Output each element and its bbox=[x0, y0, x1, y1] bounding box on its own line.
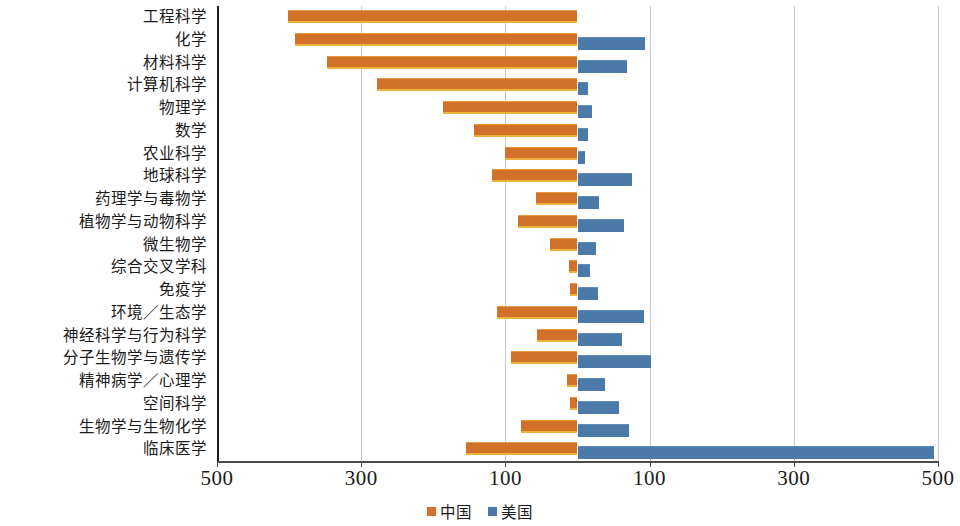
bar-usa[interactable] bbox=[578, 287, 598, 300]
orange-swatch-icon bbox=[427, 507, 436, 516]
bar-china[interactable] bbox=[521, 420, 577, 433]
bar-usa[interactable] bbox=[578, 151, 585, 164]
chart-row bbox=[217, 29, 938, 52]
axis-tick-label: 500 bbox=[922, 466, 955, 491]
bar-usa[interactable] bbox=[578, 37, 646, 50]
bar-usa[interactable] bbox=[578, 310, 644, 323]
bar-usa[interactable] bbox=[578, 128, 588, 141]
blue-swatch-icon bbox=[488, 507, 497, 516]
bar-usa[interactable] bbox=[578, 264, 591, 277]
plot-area bbox=[217, 6, 938, 461]
bar-usa[interactable] bbox=[578, 219, 624, 232]
bar-china[interactable] bbox=[443, 101, 577, 114]
value-axis-baseline bbox=[217, 461, 939, 463]
category-label: 地球科学 bbox=[143, 165, 207, 188]
category-label: 临床医学 bbox=[143, 438, 207, 461]
chart-row bbox=[217, 347, 938, 370]
bar-usa[interactable] bbox=[578, 82, 588, 95]
axis-tick-label: 500 bbox=[201, 466, 234, 491]
bar-china[interactable] bbox=[288, 10, 578, 23]
legend-item-china[interactable]: 中国 bbox=[427, 500, 472, 522]
chart-row bbox=[217, 165, 938, 188]
category-label: 精神病学／心理学 bbox=[79, 370, 207, 393]
category-label: 数学 bbox=[175, 120, 207, 143]
bar-usa[interactable] bbox=[578, 333, 623, 346]
bar-china[interactable] bbox=[511, 351, 577, 364]
bar-china[interactable] bbox=[537, 329, 577, 342]
chart-row bbox=[217, 143, 938, 166]
chart-row bbox=[217, 74, 938, 97]
chart-row bbox=[217, 97, 938, 120]
bar-china[interactable] bbox=[497, 306, 578, 319]
category-label: 材料科学 bbox=[143, 52, 207, 75]
bar-usa[interactable] bbox=[578, 173, 633, 186]
zero-axis-line bbox=[217, 6, 219, 461]
bar-usa[interactable] bbox=[578, 401, 620, 414]
chart-row bbox=[217, 302, 938, 325]
category-label: 化学 bbox=[175, 29, 207, 52]
chart-row bbox=[217, 438, 938, 461]
bar-china[interactable] bbox=[518, 215, 577, 228]
bar-china[interactable] bbox=[570, 283, 577, 296]
bar-usa[interactable] bbox=[578, 446, 935, 459]
bar-usa[interactable] bbox=[578, 378, 605, 391]
bar-china[interactable] bbox=[536, 192, 578, 205]
chart-row bbox=[217, 52, 938, 75]
category-label: 综合交叉学科 bbox=[111, 256, 207, 279]
bar-china[interactable] bbox=[295, 33, 578, 46]
axis-tick-label: 100 bbox=[633, 466, 666, 491]
chart-legend: 中国 美国 bbox=[0, 500, 960, 522]
chart-row bbox=[217, 188, 938, 211]
diverging-bar-chart: 工程科学化学材料科学计算机科学物理学数学农业科学地球科学药理学与毒物学植物学与动… bbox=[0, 0, 960, 526]
legend-label-usa: 美国 bbox=[501, 500, 533, 522]
category-label: 物理学 bbox=[159, 97, 207, 120]
bar-china[interactable] bbox=[569, 260, 578, 273]
bar-china[interactable] bbox=[492, 169, 577, 182]
category-label: 药理学与毒物学 bbox=[95, 188, 207, 211]
gridline bbox=[938, 6, 939, 461]
chart-row bbox=[217, 370, 938, 393]
bar-usa[interactable] bbox=[578, 105, 592, 118]
category-label: 空间科学 bbox=[143, 393, 207, 416]
bar-china[interactable] bbox=[474, 124, 578, 137]
chart-row bbox=[217, 279, 938, 302]
category-label: 工程科学 bbox=[143, 6, 207, 29]
category-label: 生物学与生物化学 bbox=[79, 416, 207, 439]
category-label: 神经科学与行为科学 bbox=[63, 325, 207, 348]
chart-row bbox=[217, 256, 938, 279]
bar-usa[interactable] bbox=[578, 242, 597, 255]
bar-china[interactable] bbox=[505, 147, 577, 160]
category-label: 计算机科学 bbox=[127, 74, 207, 97]
chart-row bbox=[217, 393, 938, 416]
chart-row bbox=[217, 325, 938, 348]
bar-usa[interactable] bbox=[578, 355, 652, 368]
bar-china[interactable] bbox=[327, 56, 578, 69]
bar-usa[interactable] bbox=[578, 424, 630, 437]
bar-china[interactable] bbox=[567, 374, 577, 387]
category-label: 植物学与动物科学 bbox=[79, 211, 207, 234]
category-label: 农业科学 bbox=[143, 143, 207, 166]
category-label: 免疫学 bbox=[159, 279, 207, 302]
chart-row bbox=[217, 6, 938, 29]
category-axis: 工程科学化学材料科学计算机科学物理学数学农业科学地球科学药理学与毒物学植物学与动… bbox=[0, 6, 211, 461]
chart-row bbox=[217, 120, 938, 143]
category-label: 环境／生态学 bbox=[111, 302, 207, 325]
category-label: 分子生物学与遗传学 bbox=[63, 347, 207, 370]
chart-row bbox=[217, 416, 938, 439]
category-label: 微生物学 bbox=[143, 234, 207, 257]
bar-china[interactable] bbox=[377, 78, 577, 91]
axis-tick-label: 100 bbox=[489, 466, 522, 491]
chart-row bbox=[217, 211, 938, 234]
legend-label-china: 中国 bbox=[440, 500, 472, 522]
legend-item-usa[interactable]: 美国 bbox=[488, 500, 533, 522]
bar-china[interactable] bbox=[466, 442, 577, 455]
axis-tick-label: 300 bbox=[345, 466, 378, 491]
axis-tick-label: 300 bbox=[777, 466, 810, 491]
bar-usa[interactable] bbox=[578, 60, 627, 73]
bar-china[interactable] bbox=[550, 238, 577, 251]
chart-row bbox=[217, 234, 938, 257]
bar-china[interactable] bbox=[570, 397, 577, 410]
bar-usa[interactable] bbox=[578, 196, 600, 209]
